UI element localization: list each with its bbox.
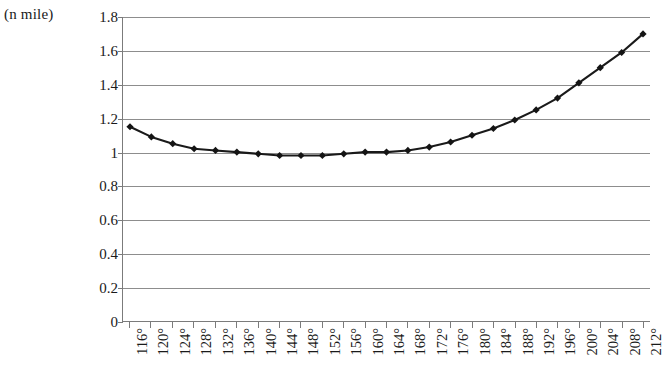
y-axis-tick-mark <box>118 119 123 120</box>
x-axis-tick-label: 188° <box>521 328 536 356</box>
y-axis-tick-labels: 00.20.40.60.811.21.41.61.8 <box>60 9 118 323</box>
x-axis-tick-label: 204° <box>606 328 621 356</box>
x-axis-tick-label: 192° <box>542 328 557 356</box>
data-point-marker <box>191 145 198 152</box>
x-axis-tick-label: 184° <box>499 328 514 356</box>
data-point-marker <box>319 152 326 159</box>
y-axis-tick-label: 1.2 <box>60 111 118 127</box>
data-point-marker <box>511 116 518 123</box>
x-axis-tick-label: 196° <box>563 328 578 356</box>
data-point-marker <box>169 140 176 147</box>
x-axis-tick-labels: 116°120°124°128°132°136°140°144°148°152°… <box>122 328 650 367</box>
y-axis-tick-mark <box>118 17 123 18</box>
y-axis-tick-label: 1.4 <box>60 77 118 93</box>
x-axis-tick-label: 116° <box>135 328 150 355</box>
y-axis-tick-label: 0.2 <box>60 280 118 296</box>
data-point-marker <box>447 138 454 145</box>
series-polyline <box>130 34 643 156</box>
y-axis-tick-mark <box>118 153 123 154</box>
x-axis-tick-label: 156° <box>349 328 364 356</box>
y-axis-tick-label: 0.4 <box>60 246 118 262</box>
data-point-marker <box>148 133 155 140</box>
data-point-marker <box>362 149 369 156</box>
y-axis-tick-mark <box>118 220 123 221</box>
data-point-marker <box>233 149 240 156</box>
data-point-marker <box>426 143 433 150</box>
y-axis-tick-label: 0.6 <box>60 212 118 228</box>
data-point-marker <box>276 152 283 159</box>
x-axis-tick-label: 124° <box>178 328 193 356</box>
x-axis-tick-label: 120° <box>156 328 171 356</box>
plot-area <box>122 17 650 322</box>
y-axis-tick-mark <box>118 51 123 52</box>
data-point-marker <box>340 150 347 157</box>
x-axis-tick-label: 208° <box>628 328 643 356</box>
x-axis-tick-label: 176° <box>456 328 471 356</box>
data-series-line <box>123 17 650 321</box>
y-axis-tick-mark <box>118 288 123 289</box>
x-axis-tick-label: 172° <box>435 328 450 356</box>
y-axis-unit-label: (n mile) <box>4 6 54 22</box>
x-axis-tick-label: 168° <box>413 328 428 356</box>
data-point-marker <box>468 132 475 139</box>
y-axis-tick-label: 0.8 <box>60 178 118 194</box>
data-point-marker <box>212 147 219 154</box>
y-axis-tick-label: 0 <box>60 314 118 330</box>
x-axis-tick-label: 152° <box>328 328 343 356</box>
y-axis-tick-mark <box>118 254 123 255</box>
x-axis-tick-label: 164° <box>392 328 407 356</box>
y-axis-tick-label: 1.6 <box>60 43 118 59</box>
data-point-marker <box>404 147 411 154</box>
y-axis-tick-label: 1 <box>60 145 118 161</box>
data-point-marker <box>383 149 390 156</box>
x-axis-tick-label: 180° <box>478 328 493 356</box>
x-axis-tick-label: 140° <box>264 328 279 356</box>
x-axis-tick-label: 128° <box>199 328 214 356</box>
y-axis-tick-mark <box>118 186 123 187</box>
y-axis-tick-mark <box>118 85 123 86</box>
data-point-marker <box>297 152 304 159</box>
x-axis-tick-label: 212° <box>649 328 664 356</box>
data-point-marker <box>126 123 133 130</box>
x-axis-tick-label: 160° <box>371 328 386 356</box>
data-point-marker <box>490 125 497 132</box>
data-point-marker <box>255 150 262 157</box>
x-axis-tick-label: 136° <box>242 328 257 356</box>
x-axis-tick-label: 200° <box>585 328 600 356</box>
x-axis-tick-label: 144° <box>285 328 300 356</box>
y-axis-tick-label: 1.8 <box>60 9 118 25</box>
x-axis-tick-label: 132° <box>221 328 236 356</box>
x-axis-tick-label: 148° <box>306 328 321 356</box>
